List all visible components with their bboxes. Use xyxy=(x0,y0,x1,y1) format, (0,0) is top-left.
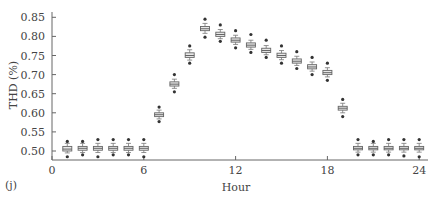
outlier-low xyxy=(112,153,115,156)
outlier-low xyxy=(219,40,222,43)
outlier-low xyxy=(158,120,161,123)
outlier-high xyxy=(219,23,222,26)
outlier-high xyxy=(372,140,375,143)
box-hour-20 xyxy=(354,138,363,156)
box-hour-22 xyxy=(384,138,393,156)
outlier-low xyxy=(387,153,390,156)
box-hour-21 xyxy=(369,140,378,157)
box-hour-8 xyxy=(170,73,179,93)
outlier-high xyxy=(142,138,145,141)
y-tick-label: 0.50 xyxy=(21,145,46,158)
box-hour-7 xyxy=(155,105,164,123)
box-hour-18 xyxy=(323,62,332,82)
box-hour-14 xyxy=(262,39,271,59)
panel-label: (j) xyxy=(5,179,17,192)
outlier-high xyxy=(158,105,161,108)
box-hour-6 xyxy=(139,138,148,158)
outlier-high xyxy=(203,18,206,21)
box-hour-5 xyxy=(124,138,133,156)
outlier-high xyxy=(280,44,283,47)
thd-boxplot-chart: 0.500.550.600.650.700.750.800.8506121824… xyxy=(0,0,438,201)
box-hour-10 xyxy=(201,18,210,39)
box-hour-11 xyxy=(216,23,225,43)
outlier-low xyxy=(341,115,344,118)
outlier-low xyxy=(249,51,252,54)
x-axis-label: Hour xyxy=(222,181,251,194)
outlier-high xyxy=(81,140,84,143)
outlier-high xyxy=(311,56,314,59)
x-tick-label: 12 xyxy=(229,164,243,177)
outlier-low xyxy=(356,153,359,156)
outlier-low xyxy=(326,79,329,82)
box-hour-24 xyxy=(415,138,424,158)
box-series xyxy=(63,18,424,159)
outlier-high xyxy=(66,140,69,143)
outlier-low xyxy=(96,155,99,158)
outlier-low xyxy=(234,46,237,49)
outlier-high xyxy=(387,138,390,141)
y-tick-label: 0.65 xyxy=(21,88,46,101)
box-hour-19 xyxy=(338,98,347,118)
outlier-low xyxy=(311,73,314,76)
outlier-low xyxy=(81,153,84,156)
outlier-low xyxy=(295,67,298,70)
box-hour-15 xyxy=(277,44,286,64)
x-tick-label: 24 xyxy=(412,164,426,177)
box-hour-16 xyxy=(292,50,301,70)
outlier-low xyxy=(402,154,405,157)
outlier-low xyxy=(66,155,69,158)
outlier-high xyxy=(265,39,268,42)
outlier-high xyxy=(127,138,130,141)
outlier-low xyxy=(372,153,375,156)
outlier-low xyxy=(188,62,191,65)
box-hour-2 xyxy=(78,140,87,157)
y-tick-label: 0.55 xyxy=(21,126,46,139)
outlier-high xyxy=(356,138,359,141)
y-tick-label: 0.70 xyxy=(21,69,46,82)
box-hour-13 xyxy=(246,33,255,54)
outlier-high xyxy=(249,33,252,36)
y-axis-label: THD (%) xyxy=(7,61,20,109)
box-hour-1 xyxy=(63,140,72,158)
outlier-high xyxy=(188,44,191,47)
y-tick-label: 0.80 xyxy=(21,30,46,43)
box-hour-23 xyxy=(399,138,408,158)
outlier-high xyxy=(295,50,298,53)
x-tick-label: 6 xyxy=(140,164,147,177)
box-hour-3 xyxy=(93,138,102,158)
outlier-low xyxy=(173,90,176,93)
outlier-high xyxy=(96,138,99,141)
outlier-low xyxy=(127,153,130,156)
box-hour-9 xyxy=(185,44,194,64)
y-tick-label: 0.60 xyxy=(21,107,46,120)
outlier-high xyxy=(112,138,115,141)
outlier-high xyxy=(173,73,176,76)
y-tick-label: 0.85 xyxy=(21,11,46,24)
box-hour-12 xyxy=(231,29,240,49)
x-tick-label: 18 xyxy=(320,164,334,177)
outlier-low xyxy=(142,155,145,158)
outlier-high xyxy=(402,138,405,141)
box-hour-17 xyxy=(308,56,317,76)
outlier-low xyxy=(265,56,268,59)
box-hour-4 xyxy=(109,138,118,156)
outlier-high xyxy=(341,98,344,101)
outlier-low xyxy=(418,155,421,158)
outlier-high xyxy=(418,138,421,141)
outlier-low xyxy=(203,36,206,39)
x-tick-label: 0 xyxy=(49,164,56,177)
outlier-low xyxy=(280,62,283,65)
outlier-high xyxy=(326,62,329,65)
outlier-high xyxy=(234,29,237,32)
y-tick-label: 0.75 xyxy=(21,50,46,63)
